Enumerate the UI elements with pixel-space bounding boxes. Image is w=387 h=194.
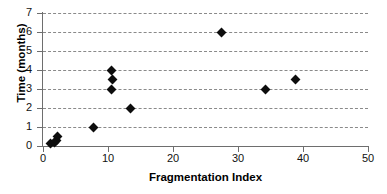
data-point (89, 122, 99, 132)
y-axis-title: Time (months) (15, 0, 27, 128)
y-tick-label-0: 0 (5, 140, 32, 151)
data-point (291, 75, 301, 85)
data-point (108, 75, 118, 85)
x-tick-label-50: 50 (348, 153, 387, 164)
data-point (217, 27, 227, 37)
x-axis-title: Fragmentation Index (43, 171, 368, 183)
x-tick-label-20: 20 (153, 153, 193, 164)
data-point (125, 103, 135, 113)
x-tick-label-10: 10 (88, 153, 128, 164)
scatter-chart: 01234567 01020304050 Fragmentation Index… (0, 0, 387, 194)
x-tick-label-40: 40 (283, 153, 323, 164)
x-tick-label-30: 30 (218, 153, 258, 164)
plot-area (43, 13, 368, 146)
x-tick-label-0: 0 (23, 153, 63, 164)
data-point (260, 84, 270, 94)
x-axis-line (43, 146, 369, 147)
data-point (107, 65, 117, 75)
data-point (107, 84, 117, 94)
